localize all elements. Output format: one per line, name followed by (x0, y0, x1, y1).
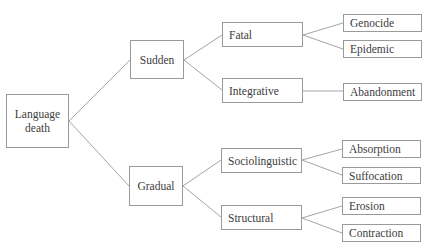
node-label: Sudden (140, 53, 175, 67)
node-epidemic: Epidemic (343, 40, 422, 58)
node-absorption: Absorption (342, 140, 421, 158)
edge-sociolinguistic-suffocation (302, 160, 342, 175)
edge-language-death-gradual (69, 121, 129, 186)
edge-gradual-structural (183, 186, 221, 217)
node-label: Epidemic (350, 42, 394, 56)
node-label: Integrative (229, 84, 279, 98)
node-label: Erosion (349, 199, 385, 213)
node-label: Fatal (229, 28, 252, 42)
node-gradual: Gradual (129, 166, 183, 206)
edge-structural-erosion (302, 206, 342, 218)
node-label: Sociolinguistic (228, 154, 297, 168)
node-label: Structural (228, 211, 273, 225)
edge-fatal-epidemic (303, 35, 343, 49)
node-language-death: Language death (6, 94, 69, 148)
node-label: Language death (15, 107, 60, 135)
edge-sociolinguistic-absorption (302, 149, 342, 160)
edge-fatal-genocide (303, 23, 343, 35)
node-erosion: Erosion (342, 197, 421, 215)
node-abandonment: Abandonment (343, 83, 422, 101)
node-integrative: Integrative (222, 78, 303, 103)
node-genocide: Genocide (343, 14, 422, 32)
node-suffocation: Suffocation (342, 167, 421, 184)
node-label: Suffocation (349, 169, 402, 183)
node-structural: Structural (221, 205, 302, 230)
edge-sudden-fatal (184, 35, 222, 60)
edge-language-death-sudden (69, 60, 130, 121)
node-label: Absorption (349, 142, 401, 156)
node-sociolinguistic: Sociolinguistic (221, 148, 302, 173)
edge-structural-contraction (302, 218, 342, 233)
edge-sudden-integrative (184, 60, 222, 90)
node-label: Abandonment (350, 85, 415, 99)
node-label: Contraction (349, 226, 403, 240)
edge-gradual-sociolinguistic (183, 160, 221, 186)
node-label: Genocide (350, 16, 394, 30)
node-fatal: Fatal (222, 22, 303, 47)
node-label: Gradual (137, 179, 174, 193)
node-contraction: Contraction (342, 224, 421, 242)
node-sudden: Sudden (130, 40, 184, 79)
